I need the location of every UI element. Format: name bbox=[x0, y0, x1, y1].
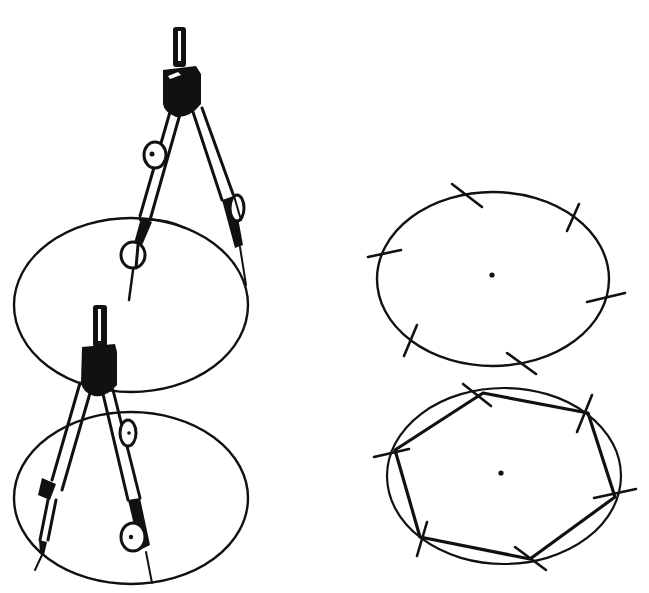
panel-step-2 bbox=[14, 305, 248, 584]
panel-step-4 bbox=[374, 384, 636, 570]
hexagon-construction-figure bbox=[0, 0, 649, 593]
arc-marks bbox=[368, 184, 625, 374]
panel-step-1 bbox=[14, 27, 248, 392]
arc-marks bbox=[374, 384, 636, 570]
center-point bbox=[498, 470, 503, 475]
panel-step-3 bbox=[368, 184, 625, 374]
compass-icon bbox=[35, 305, 152, 583]
compass-icon bbox=[121, 27, 246, 300]
center-point bbox=[489, 272, 494, 277]
